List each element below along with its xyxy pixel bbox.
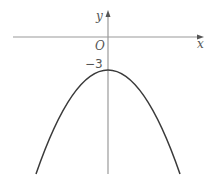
- parabola-chart: y x O −3: [0, 0, 213, 184]
- x-axis-label: x: [197, 37, 204, 51]
- origin-label: O: [95, 39, 105, 53]
- y-intercept-label: −3: [85, 57, 103, 71]
- y-axis-arrow-icon: [106, 10, 111, 17]
- y-axis-label: y: [95, 9, 103, 23]
